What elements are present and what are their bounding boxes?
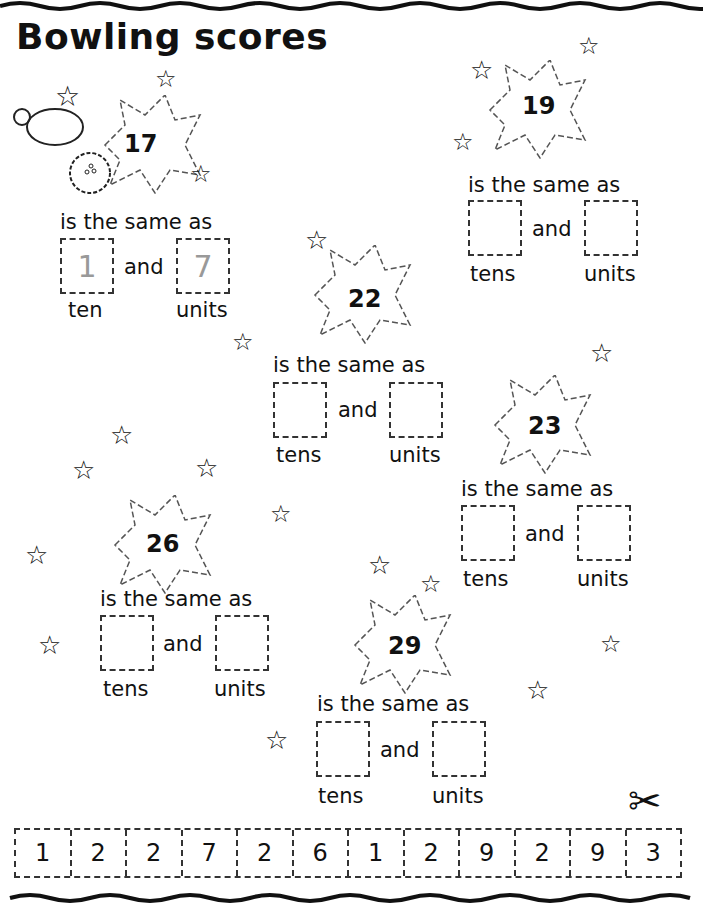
same-as-text: is the same as (100, 587, 252, 611)
star-icon: ☆ (25, 540, 48, 570)
tens-box[interactable] (273, 382, 327, 438)
score-22: 22 (348, 285, 381, 313)
star-icon: ☆ (305, 225, 328, 255)
star-icon: ☆ (265, 725, 288, 755)
and-text: and (532, 217, 572, 241)
page-title: Bowling scores (16, 16, 328, 57)
same-as-text: is the same as (461, 477, 613, 501)
star-icon: ☆ (452, 128, 474, 156)
units-box[interactable] (389, 382, 443, 438)
and-text: and (380, 738, 420, 762)
tens-box[interactable] (100, 615, 154, 671)
star-icon: ☆ (470, 55, 493, 85)
top-border (0, 0, 703, 12)
tens-box[interactable] (461, 505, 515, 561)
star-icon: ☆ (195, 453, 218, 483)
star-icon: ☆ (190, 160, 212, 188)
star-icon: ☆ (526, 675, 549, 705)
strip-cell[interactable]: 3 (627, 830, 681, 876)
units-label: units (577, 567, 629, 591)
tens-box[interactable] (316, 721, 370, 777)
tens-label: tens (103, 677, 148, 701)
score-26: 26 (146, 530, 179, 558)
same-as-text: is the same as (60, 210, 212, 234)
scissors-icon: ✂ (628, 778, 662, 824)
strip-cell[interactable]: 7 (183, 830, 239, 876)
units-label: units (389, 443, 441, 467)
star-icon: ☆ (420, 570, 442, 598)
tens-label: tens (276, 443, 321, 467)
same-as-text: is the same as (468, 173, 620, 197)
units-label: units (432, 784, 484, 808)
strip-cell[interactable]: 2 (405, 830, 461, 876)
units-label: units (176, 298, 228, 322)
strip-cell[interactable]: 9 (571, 830, 627, 876)
tens-label: tens (470, 262, 515, 286)
star-icon: ☆ (600, 630, 622, 658)
star-icon: ☆ (38, 630, 61, 660)
score-29: 29 (388, 632, 421, 660)
tens-label: tens (318, 784, 363, 808)
strip-cell[interactable]: 2 (72, 830, 128, 876)
units-box[interactable] (432, 721, 486, 777)
star-icon: ☆ (155, 65, 177, 93)
units-box[interactable] (584, 200, 638, 256)
star-icon: ☆ (232, 328, 254, 356)
star-icon: ☆ (578, 32, 600, 60)
units-label: units (214, 677, 266, 701)
same-as-text: is the same as (317, 692, 469, 716)
star-icon: ☆ (368, 550, 391, 580)
score-23: 23 (528, 412, 561, 440)
units-box[interactable]: 7 (176, 238, 230, 294)
same-as-text: is the same as (273, 353, 425, 377)
units-label: units (584, 262, 636, 286)
strip-cell[interactable]: 2 (238, 830, 294, 876)
and-text: and (338, 398, 378, 422)
strip-cell[interactable]: 6 (294, 830, 350, 876)
cutout-number-strip: 1 2 2 7 2 6 1 2 9 2 9 3 (14, 828, 682, 878)
bottom-border (0, 892, 703, 904)
and-text: and (124, 255, 164, 279)
score-19: 19 (522, 92, 555, 120)
star-icon: ☆ (55, 80, 80, 113)
score-17: 17 (124, 130, 157, 158)
and-text: and (525, 522, 565, 546)
tens-box[interactable]: 1 (60, 238, 114, 294)
tens-label: ten (68, 298, 102, 322)
star-icon: ☆ (270, 500, 292, 528)
star-icon: ☆ (110, 420, 133, 450)
bowling-ball-icon (65, 148, 115, 198)
star-icon: ☆ (590, 338, 613, 368)
tens-label: tens (463, 567, 508, 591)
strip-cell[interactable]: 1 (349, 830, 405, 876)
and-text: and (163, 632, 203, 656)
strip-cell[interactable]: 9 (460, 830, 516, 876)
strip-cell[interactable]: 2 (127, 830, 183, 876)
star-icon: ☆ (72, 455, 95, 485)
strip-cell[interactable]: 1 (16, 830, 72, 876)
units-box[interactable] (215, 615, 269, 671)
tens-box[interactable] (468, 200, 522, 256)
strip-cell[interactable]: 2 (516, 830, 572, 876)
units-box[interactable] (577, 505, 631, 561)
